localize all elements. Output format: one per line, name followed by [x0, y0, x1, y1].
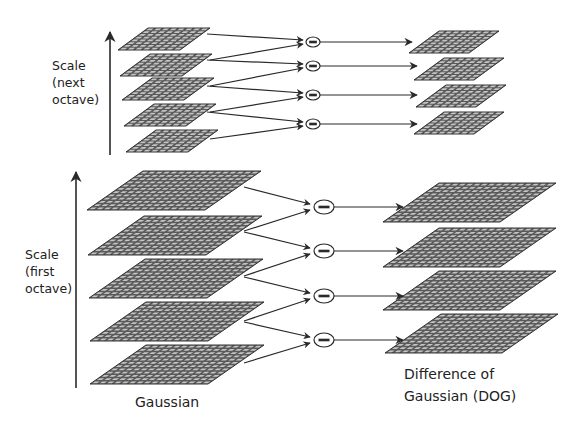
axis-label-line: Scale — [52, 57, 99, 74]
first-octave-axis-label: Scale (first octave) — [25, 246, 72, 297]
first-octave-gaussian-plane — [89, 259, 263, 298]
dog-caption-line-1: Difference of — [404, 363, 516, 385]
subtract-node — [314, 200, 334, 214]
next-octave-gaussian-plane — [126, 130, 218, 152]
first-octave-gaussian-plane — [90, 345, 264, 384]
first-octave-gaussian-plane — [88, 216, 262, 255]
gaussian-caption: Gaussian — [135, 391, 199, 413]
subtract-node — [314, 333, 334, 347]
first-octave-dog-plane — [383, 183, 556, 222]
next-octave-dog-plane — [416, 85, 506, 107]
next-octave-axis-label: Scale (next octave) — [52, 57, 99, 108]
axis-label-line: (next — [52, 74, 99, 91]
next-octave-dog-plane — [414, 58, 504, 80]
subtract-node — [306, 37, 320, 47]
next-octave-gaussian-plane — [122, 78, 214, 100]
first-octave-gaussian-plane — [87, 171, 261, 210]
subtract-node — [314, 289, 334, 303]
dog-caption: Difference of Gaussian (DOG) — [404, 363, 516, 407]
next-octave-gaussian-plane — [120, 54, 212, 76]
dog-caption-line-2: Gaussian (DOG) — [404, 385, 516, 407]
axis-label-line: Scale — [25, 246, 72, 263]
axis-label-line: (first — [25, 263, 72, 280]
dog-pyramid-diagram: Scale (next octave) Scale (first octave)… — [0, 0, 586, 436]
subtract-node — [306, 119, 320, 129]
first-octave-dog-plane — [383, 228, 556, 267]
first-octave-dog-plane — [383, 271, 556, 310]
subtract-node — [314, 244, 334, 258]
first-octave-gaussian-plane — [90, 302, 264, 341]
first-octave-dog-plane — [385, 314, 558, 353]
subtract-node — [306, 61, 320, 71]
next-octave-gaussian-plane — [118, 28, 210, 50]
next-octave-dog-plane — [409, 31, 499, 53]
next-octave-gaussian-plane — [124, 104, 216, 126]
axis-label-line: octave) — [25, 280, 72, 297]
axis-label-line: octave) — [52, 91, 99, 108]
next-octave-dog-plane — [414, 112, 504, 134]
subtract-node — [306, 90, 320, 100]
